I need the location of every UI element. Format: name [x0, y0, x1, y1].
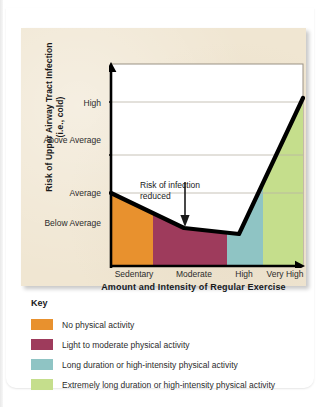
x-tick-high: High	[225, 269, 263, 279]
x-tick-sedentary: Sedentary	[105, 269, 163, 279]
legend-title: Key	[31, 298, 306, 308]
y-tick-average: Average	[39, 188, 101, 198]
legend-item: No physical activity	[31, 316, 306, 333]
x-tick-moderate: Moderate	[161, 269, 227, 279]
legend-label: No physical activity	[62, 320, 134, 330]
x-tick-very-high: Very High	[261, 269, 309, 279]
y-tick-high: High	[39, 98, 101, 108]
risk-curve-chart	[109, 62, 305, 268]
legend-label: Extremely long duration or high-intensit…	[62, 380, 275, 390]
legend-swatch-extremely-long	[31, 379, 53, 390]
chart-figure: Risk of Upper Airway Tract Infection (i.…	[21, 28, 306, 286]
page-edge-rule	[0, 0, 3, 407]
annotation-label: Risk of infection reduced	[140, 180, 232, 202]
figure-card: Risk of Upper Airway Tract Infection (i.…	[6, 8, 314, 388]
x-axis-title: Amount and Intensity of Regular Exercise	[81, 282, 306, 292]
legend-item: Light to moderate physical activity	[31, 336, 306, 353]
y-tick-above-average: Above Average	[39, 135, 101, 145]
legend-item: Long duration or high-intensity physical…	[31, 356, 306, 373]
legend-item: Extremely long duration or high-intensit…	[31, 376, 306, 393]
legend-swatch-light-moderate	[31, 339, 53, 350]
x-axis-tick-labels: Sedentary Moderate High Very High	[109, 269, 305, 283]
plot-area	[109, 62, 305, 268]
y-tick-below-average: Below Average	[39, 218, 101, 228]
legend-swatch-long-duration	[31, 359, 53, 370]
legend-label: Light to moderate physical activity	[62, 340, 190, 350]
legend: Key No physical activity Light to modera…	[31, 298, 306, 396]
legend-swatch-no-activity	[31, 319, 53, 330]
legend-label: Long duration or high-intensity physical…	[62, 360, 238, 370]
y-axis-tick-labels: High Above Average Average Below Average	[39, 28, 101, 286]
